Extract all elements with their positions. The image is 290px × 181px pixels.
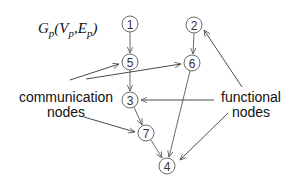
communication-callout-line2: nodes [16, 105, 116, 120]
node-1: 1 [122, 16, 138, 32]
functional-nodes-callout: functional nodes [216, 90, 286, 120]
callout-func-pointer-2 [204, 30, 242, 87]
edge-3-7 [134, 107, 142, 125]
functional-callout-line1: functional [216, 90, 286, 105]
functional-callout-line2: nodes [216, 105, 286, 120]
node-3-label: 3 [127, 94, 134, 108]
edge-6-4 [169, 71, 190, 157]
node-2: 2 [186, 17, 202, 33]
node-7: 7 [138, 125, 154, 141]
communication-nodes-callout: communication nodes [16, 90, 116, 120]
node-7-label: 7 [143, 127, 150, 141]
node-3: 3 [122, 92, 138, 108]
node-1-label: 1 [127, 18, 134, 32]
communication-callout-line1: communication [16, 90, 116, 105]
diagram-canvas: Gp(Vp,Ep) 1 2 5 [0, 0, 290, 181]
node-2-label: 2 [191, 19, 198, 33]
node-6-label: 6 [189, 57, 196, 71]
node-4-label: 4 [164, 160, 171, 174]
edge-7-4 [151, 140, 162, 158]
node-5-label: 5 [127, 56, 134, 70]
callout-func-pointer-4 [180, 113, 228, 160]
edge-2-6 [193, 33, 194, 54]
node-6: 6 [184, 55, 200, 71]
node-5: 5 [122, 54, 138, 70]
node-4: 4 [159, 158, 175, 174]
